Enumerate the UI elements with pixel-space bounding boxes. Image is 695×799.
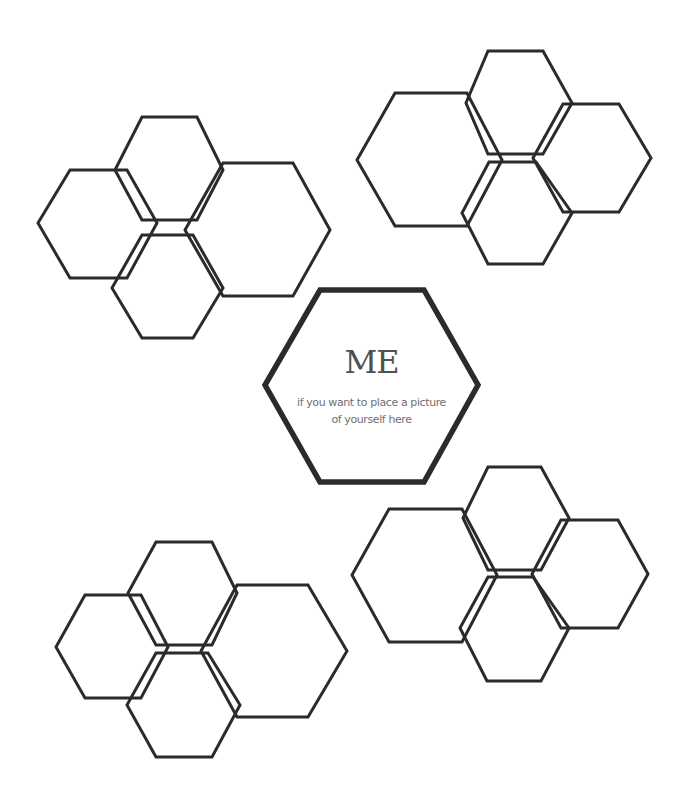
hexagon-shape	[532, 520, 648, 628]
cluster-bottom-right	[352, 467, 648, 681]
cluster-top-right	[357, 51, 651, 264]
hexagon-shape	[128, 542, 237, 645]
center-subtitle: if you want to place a picture of yourse…	[265, 394, 478, 428]
hexagon-shape	[112, 235, 223, 338]
cluster-top-left	[38, 117, 330, 338]
hexagon-shape	[38, 170, 157, 278]
hexagon-shape	[463, 467, 569, 570]
hexagon-shape	[56, 595, 168, 698]
center-hexagon-frame	[265, 290, 478, 482]
hexagon-shape	[460, 577, 569, 681]
hexagon-shape	[185, 163, 330, 296]
hexagon-shape	[115, 117, 223, 220]
hexagon-shape	[357, 93, 502, 226]
hexagon-shape	[201, 585, 347, 717]
subtitle-line-2: of yourself here	[265, 411, 478, 428]
hexagon-shape	[533, 104, 651, 212]
hexagon-shape	[462, 162, 572, 264]
cluster-bottom-left	[56, 542, 347, 757]
hexagon-shape	[127, 653, 240, 757]
hexagon-shape	[352, 509, 497, 642]
hexagon-shape	[466, 51, 572, 154]
subtitle-line-1: if you want to place a picture	[265, 394, 478, 411]
center-title: ME	[265, 342, 478, 382]
